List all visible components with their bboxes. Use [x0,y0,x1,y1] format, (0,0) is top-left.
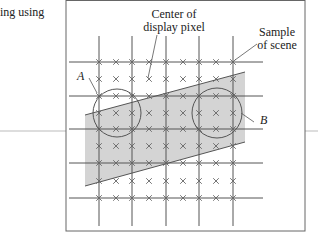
sampling-diagram: Center of display pixel Sample of scene … [0,0,318,233]
sample-label-2: of scene [257,38,297,52]
center-label-2: display pixel [143,20,205,34]
label-b: B [260,113,268,127]
sample-label-1: Sample [259,25,295,39]
center-label-1: Center of [152,7,197,21]
label-a: A [76,69,85,83]
